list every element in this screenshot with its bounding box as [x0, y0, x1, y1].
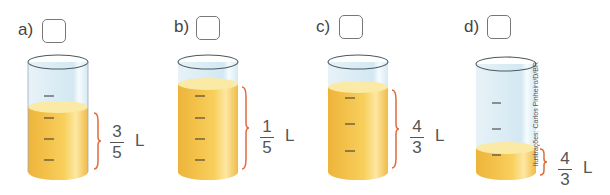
beaker-icon — [310, 0, 460, 195]
volume-fraction: 35 — [110, 123, 124, 162]
unit-label: L — [583, 158, 592, 178]
item-b: b) 15 L — [160, 0, 310, 195]
volume-fraction: 43 — [410, 118, 424, 157]
volume-fraction: 43 — [558, 150, 572, 189]
volume-fraction: 15 — [260, 118, 274, 157]
unit-label: L — [435, 126, 444, 146]
brace-icon — [392, 90, 399, 168]
brace-icon — [242, 87, 249, 169]
beaker-icon — [0, 0, 150, 195]
brace-icon — [94, 113, 101, 169]
beaker-icon — [160, 0, 310, 195]
item-a: a) 35 L — [0, 0, 150, 195]
unit-label: L — [285, 126, 294, 146]
illustration-credit: Ilustrações: Carlos Pinheiro/D/BR — [532, 62, 548, 166]
unit-label: L — [135, 131, 144, 151]
item-c: c) 43 L — [310, 0, 460, 195]
